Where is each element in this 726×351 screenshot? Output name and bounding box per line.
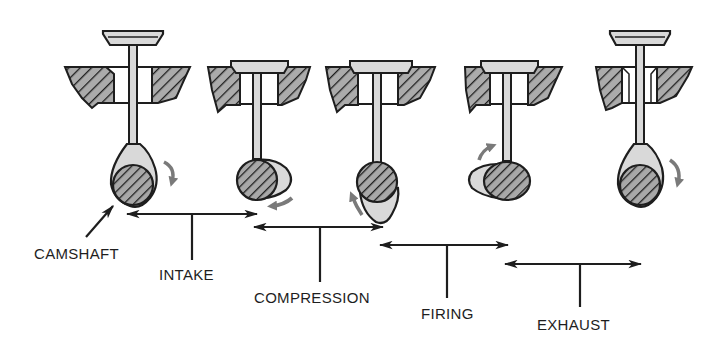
- camshaft-label: CAMSHAFT: [34, 246, 119, 261]
- cylinder-head-block: [65, 67, 190, 108]
- firing-label: FIRING: [421, 306, 474, 321]
- camshaft-lobe: [111, 144, 157, 207]
- valve-assembly-5: [596, 31, 692, 207]
- stroke-range-intake: [127, 214, 257, 260]
- camshaft-lobe: [618, 144, 663, 207]
- stroke-range-exhaust: [505, 264, 641, 307]
- rotation-arrow-icon: [272, 198, 292, 206]
- rotation-arrow-icon: [670, 160, 679, 183]
- camshaft-lobe: [237, 160, 291, 200]
- valve-assembly-2: [208, 61, 310, 206]
- stroke-range-compression: [254, 227, 383, 282]
- exhaust-label: EXHAUST: [537, 317, 610, 332]
- camshaft-pointer-arrow: [86, 206, 113, 237]
- valve-assembly-3: [326, 61, 435, 223]
- valve-assembly-1: [65, 31, 190, 207]
- rotation-arrow-icon: [164, 162, 173, 182]
- stroke-range-firing: [380, 245, 508, 298]
- compression-label: COMPRESSION: [254, 290, 370, 305]
- valve-assembly-4: [465, 61, 562, 200]
- intake-label: INTAKE: [159, 267, 214, 282]
- rotation-arrow-icon: [479, 146, 492, 160]
- camshaft-lobe: [469, 162, 530, 200]
